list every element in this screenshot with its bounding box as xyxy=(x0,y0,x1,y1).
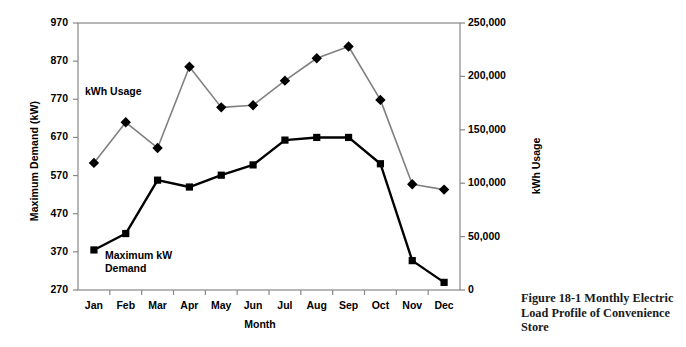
data-point-marker xyxy=(313,134,320,141)
y-axis-left-tick-label: 870 xyxy=(26,54,68,66)
data-point-marker xyxy=(312,53,322,63)
series-label-kwh-usage: kWh Usage xyxy=(85,85,142,98)
data-point-marker xyxy=(377,160,384,167)
y-axis-left-tick-label: 670 xyxy=(26,130,68,142)
y-axis-left-tick-label: 270 xyxy=(26,283,68,295)
x-axis-title: Month xyxy=(60,318,460,330)
data-point-marker xyxy=(122,230,129,237)
data-point-marker xyxy=(345,134,352,141)
y-axis-left-tick-label: 470 xyxy=(26,207,68,219)
y-axis-right-tick-label: 150,000 xyxy=(468,123,528,135)
y-axis-right-tick-label: 100,000 xyxy=(468,176,528,188)
data-point-marker xyxy=(440,279,447,286)
y-axis-right-title: kWh Usage xyxy=(530,96,542,236)
line-chart-svg xyxy=(0,0,510,347)
y-axis-left-title: Maximum Demand (kW) xyxy=(28,61,40,261)
chart-plot-area: Maximum Demand (kW) kWh Usage Month 2703… xyxy=(0,0,510,347)
data-point-marker xyxy=(407,179,417,189)
series-label-maximum-kw-demand: Maximum kW Demand xyxy=(105,249,172,275)
data-point-marker xyxy=(281,137,288,144)
data-point-marker xyxy=(409,257,416,264)
y-axis-right-tick-label: 0 xyxy=(468,283,528,295)
data-point-marker xyxy=(154,177,161,184)
data-point-marker xyxy=(439,184,449,194)
y-axis-left-tick-label: 970 xyxy=(26,16,68,28)
series-line-kwh-usage xyxy=(94,47,444,190)
data-point-marker xyxy=(343,41,353,51)
y-axis-left-tick-label: 570 xyxy=(26,169,68,181)
data-point-marker xyxy=(186,183,193,190)
y-axis-right-tick-label: 200,000 xyxy=(468,69,528,81)
figure-root: Maximum Demand (kW) kWh Usage Month 2703… xyxy=(0,0,686,347)
y-axis-left-tick-label: 770 xyxy=(26,92,68,104)
data-point-marker xyxy=(218,172,225,179)
data-point-marker xyxy=(90,246,97,253)
y-axis-right-tick-label: 50,000 xyxy=(468,230,528,242)
figure-caption: Figure 18-1 Monthly Electric Load Profil… xyxy=(521,291,681,335)
y-axis-left-tick-label: 370 xyxy=(26,245,68,257)
data-point-marker xyxy=(375,95,385,105)
y-axis-right-tick-label: 250,000 xyxy=(468,16,528,28)
data-point-marker xyxy=(249,161,256,168)
x-axis-tick-label: Dec xyxy=(424,299,464,311)
